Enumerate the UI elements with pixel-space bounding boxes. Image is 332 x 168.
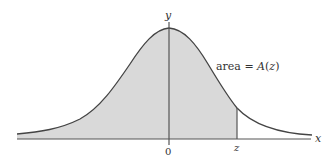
x-axis-label: x (315, 132, 322, 145)
area-annotation: area = A(z) (216, 60, 279, 73)
origin-tick-label: 0 (165, 146, 171, 157)
y-axis-label: y (164, 9, 172, 22)
shaded-area (17, 28, 237, 139)
area-prefix: area = (216, 60, 257, 73)
area-close: ) (275, 60, 279, 73)
area-func: A (256, 60, 265, 73)
z-tick-label: z (233, 142, 240, 153)
normal-curve-diagram: y x 0 z area = A(z) (0, 0, 332, 168)
